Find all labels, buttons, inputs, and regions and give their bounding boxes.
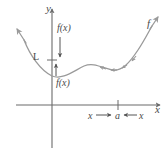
- graph-canvas: [0, 0, 167, 153]
- x-label-left: x: [88, 111, 92, 121]
- x-label-right: x: [139, 111, 143, 121]
- x-axis-label: x: [155, 104, 160, 115]
- limit-label-L: L: [33, 52, 39, 62]
- y-axis-label: y: [46, 3, 51, 14]
- fx-label-bottom: f(x): [56, 78, 70, 88]
- limit-diagram-figure: y f f(x) L f(x) x x a x: [0, 0, 167, 153]
- point-a-label: a: [115, 111, 120, 121]
- curve-left-arrowhead: [17, 29, 26, 43]
- curve-direction-marker-2: [122, 65, 127, 68]
- curve-label-f: f: [147, 18, 150, 29]
- curve-right-arrowhead: [150, 17, 158, 29]
- fx-label-top: f(x): [57, 23, 71, 33]
- function-curve: [24, 26, 152, 77]
